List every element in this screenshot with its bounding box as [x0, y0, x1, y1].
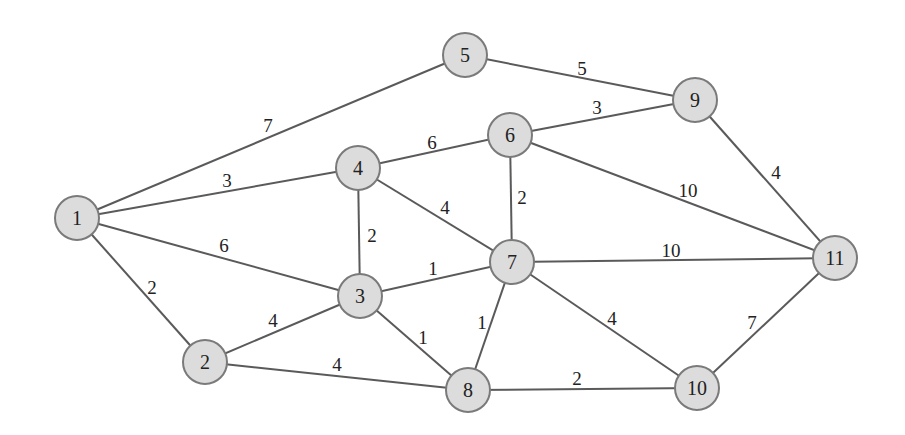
node-8: 8 — [446, 368, 490, 412]
edge-1-3 — [77, 218, 360, 296]
node-9: 9 — [673, 78, 717, 122]
edge-weight-10-11: 7 — [747, 312, 757, 333]
node-label: 10 — [687, 377, 707, 399]
nodes-layer: 1234567891011 — [55, 33, 857, 412]
edge-9-11 — [695, 100, 835, 258]
edge-weight-1-4: 3 — [222, 170, 232, 191]
edge-weight-6-7: 2 — [517, 187, 527, 208]
node-label: 9 — [690, 89, 700, 111]
edge-weight-2-3: 4 — [268, 310, 278, 331]
edge-2-3 — [205, 296, 360, 362]
edges-layer — [77, 55, 835, 390]
node-label: 11 — [825, 247, 844, 269]
edge-weight-5-9: 5 — [577, 58, 587, 79]
node-11: 11 — [813, 236, 857, 280]
node-label: 1 — [72, 207, 82, 229]
node-5: 5 — [443, 33, 487, 77]
edge-weight-4-6: 6 — [427, 132, 437, 153]
edge-1-4 — [77, 168, 358, 218]
edge-weight-9-11: 4 — [771, 162, 781, 183]
node-label: 6 — [505, 124, 515, 146]
node-1: 1 — [55, 196, 99, 240]
edge-weight-1-2: 2 — [147, 277, 157, 298]
node-6: 6 — [488, 113, 532, 157]
edge-weight-7-10: 4 — [607, 308, 617, 329]
edge-6-9 — [510, 100, 695, 135]
edge-weight-3-8: 1 — [418, 327, 428, 348]
node-2: 2 — [183, 340, 227, 384]
weighted-graph: 73624421164532101014247 1234567891011 — [0, 0, 905, 435]
edge-weight-6-11: 10 — [679, 180, 698, 201]
edge-weight-8-10: 2 — [572, 368, 582, 389]
edge-1-2 — [77, 218, 205, 362]
edge-weight-6-9: 3 — [592, 97, 602, 118]
edge-weight-2-8: 4 — [332, 354, 342, 375]
node-label: 7 — [507, 251, 517, 273]
edge-7-10 — [512, 262, 697, 388]
edge-weight-4-7: 4 — [440, 197, 450, 218]
edge-weight-3-4: 2 — [367, 225, 377, 246]
edge-4-7 — [358, 168, 512, 262]
node-3: 3 — [338, 274, 382, 318]
node-label: 3 — [355, 285, 365, 307]
node-4: 4 — [336, 146, 380, 190]
node-label: 8 — [463, 379, 473, 401]
edge-weight-7-8: 1 — [477, 312, 487, 333]
edge-1-5 — [77, 55, 465, 218]
node-label: 2 — [200, 351, 210, 373]
edge-weight-1-3: 6 — [219, 235, 229, 256]
node-10: 10 — [675, 366, 719, 410]
node-label: 4 — [353, 157, 363, 179]
node-7: 7 — [490, 240, 534, 284]
edge-8-10 — [468, 388, 697, 390]
edge-weight-3-7: 1 — [428, 258, 438, 279]
edge-weight-1-5: 7 — [263, 115, 273, 136]
node-label: 5 — [460, 44, 470, 66]
edge-weight-7-11: 10 — [662, 240, 681, 261]
edge-10-11 — [697, 258, 835, 388]
